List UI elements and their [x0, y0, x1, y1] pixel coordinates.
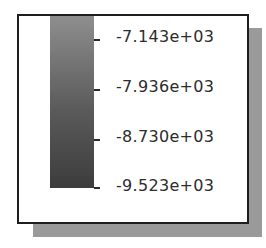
colorbar-legend-panel: -7.143e+03 -7.936e+03 -8.730e+03 -9.523e…	[0, 0, 266, 248]
legend-frame: -7.143e+03 -7.936e+03 -8.730e+03 -9.523e…	[17, 14, 249, 224]
tick-mark	[94, 139, 100, 141]
tick-mark	[94, 39, 100, 41]
tick-label: -7.143e+03	[116, 28, 214, 46]
tick-label: -9.523e+03	[116, 177, 214, 195]
tick-mark	[94, 187, 100, 189]
tick-label: -7.936e+03	[116, 78, 214, 96]
color-scale-bar	[50, 16, 94, 188]
tick-label: -8.730e+03	[116, 128, 214, 146]
tick-mark	[94, 89, 100, 91]
